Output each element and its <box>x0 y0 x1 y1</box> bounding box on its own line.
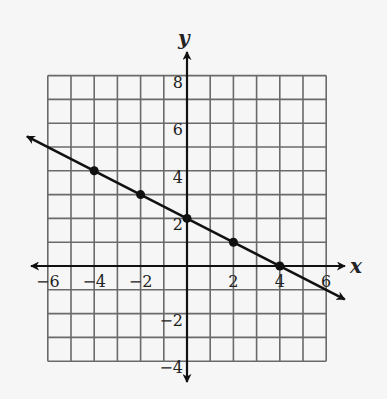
x-tick-label: −6 <box>36 272 60 291</box>
data-point <box>136 190 145 199</box>
data-point <box>183 214 192 223</box>
x-tick-label: 4 <box>275 272 285 291</box>
x-tick-label: −4 <box>82 272 106 291</box>
y-tick-label: 4 <box>173 168 183 187</box>
y-axis-label: y <box>177 26 191 50</box>
y-tick-label: −2 <box>159 311 183 330</box>
data-point <box>90 166 99 175</box>
data-point <box>229 238 238 247</box>
y-tick-label: 6 <box>173 120 183 139</box>
y-tick-label: 2 <box>173 215 183 234</box>
coordinate-plane: −6−4−22468642−2−4 x y <box>0 0 387 399</box>
y-tick-label: −4 <box>159 358 183 377</box>
x-axis-label: x <box>349 254 363 278</box>
tick-labels: −6−4−22468642−2−4 <box>36 73 331 378</box>
x-tick-label: −2 <box>129 272 153 291</box>
data-point <box>275 262 284 271</box>
y-tick-label: 8 <box>173 73 183 92</box>
x-tick-label: 2 <box>228 272 238 291</box>
